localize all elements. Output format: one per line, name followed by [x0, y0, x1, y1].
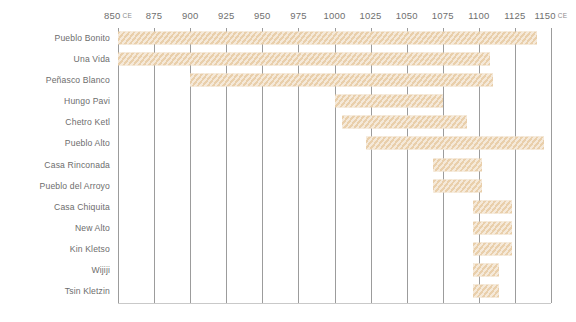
y-axis-category-labels: Pueblo BonitoUna VidaPeñasco BlancoHungo… [0, 28, 110, 303]
bar-pe-asco-blanco [190, 73, 493, 86]
bar-hungo-pavi [335, 95, 443, 108]
gridline-1125 [515, 28, 516, 303]
bar-wijiji [473, 264, 499, 277]
x-tick-label-900: 900 [182, 10, 198, 21]
row-label-tsin-kletzin: Tsin Kletzin [65, 286, 110, 296]
row-label-pe-asco-blanco: Peñasco Blanco [46, 75, 110, 85]
bar-casa-chiquita [473, 200, 512, 213]
gridline-1050 [407, 28, 408, 303]
bar-new-alto [473, 221, 512, 234]
x-tick-label-925: 925 [218, 10, 234, 21]
x-tick-label-1000: 1000 [324, 10, 346, 21]
bar-tsin-kletzin [473, 285, 499, 298]
x-axis-tick-labels: 850CE87590092595097510001025105010751100… [0, 0, 576, 28]
gridline-925 [226, 28, 227, 303]
gridline-875 [154, 28, 155, 303]
bar-casa-rinconada [433, 158, 482, 171]
x-tick-label-1100: 1100 [468, 10, 489, 21]
era-suffix: CE [122, 12, 132, 19]
bar-pueblo-alto [366, 137, 544, 150]
row-label-wijiji: Wijiji [91, 265, 110, 275]
era-suffix: CE [558, 12, 568, 19]
row-label-pueblo-bonito: Pueblo Bonito [55, 33, 110, 43]
row-label-pueblo-del-arroyo: Pueblo del Arroyo [40, 181, 110, 191]
x-tick-label-975: 975 [290, 10, 306, 21]
x-tick-label-1150: 1150CE [535, 10, 568, 21]
x-tick-label-1125: 1125 [504, 10, 525, 21]
gridline-1025 [371, 28, 372, 303]
gridline-900 [190, 28, 191, 303]
row-label-kin-kletso: Kin Kletso [70, 244, 110, 254]
row-label-pueblo-alto: Pueblo Alto [65, 138, 110, 148]
x-tick-label-875: 875 [146, 10, 162, 21]
bar-pueblo-del-arroyo [433, 179, 482, 192]
row-label-casa-rinconada: Casa Rinconada [44, 160, 110, 170]
gridline-1150 [551, 28, 552, 303]
gridline-850 [118, 28, 119, 303]
chaco-great-houses-timeline-chart: 850CE87590092595097510001025105010751100… [0, 0, 576, 322]
row-label-chetro-ketl: Chetro Ketl [65, 117, 110, 127]
x-tick-label-850: 850CE [104, 10, 132, 21]
bar-una-vida [118, 52, 490, 65]
plot-area [118, 28, 551, 303]
x-tick-label-1050: 1050 [396, 10, 418, 21]
row-label-new-alto: New Alto [75, 223, 110, 233]
x-tick-label-1025: 1025 [360, 10, 382, 21]
gridline-1000 [335, 28, 336, 303]
x-tick-label-950: 950 [254, 10, 270, 21]
bar-pueblo-bonito [118, 31, 537, 44]
row-label-casa-chiquita: Casa Chiquita [54, 202, 110, 212]
bar-kin-kletso [473, 243, 512, 256]
bar-chetro-ketl [342, 116, 468, 129]
gridline-975 [298, 28, 299, 303]
gridline-950 [262, 28, 263, 303]
row-label-hungo-pavi: Hungo Pavi [64, 96, 110, 106]
row-label-una-vida: Una Vida [74, 54, 110, 64]
x-tick-label-1075: 1075 [432, 10, 454, 21]
x-axis-baseline [118, 303, 551, 304]
